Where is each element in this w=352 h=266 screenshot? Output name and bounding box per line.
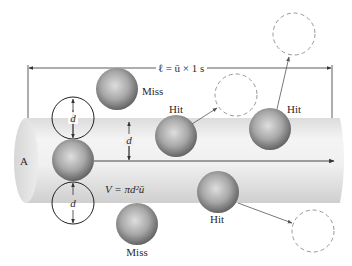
miss-label-top: Miss <box>142 85 163 97</box>
hit-label-2: Hit <box>287 103 301 115</box>
deflected-position-1 <box>215 74 257 116</box>
molecule-miss-top: Miss <box>96 68 163 110</box>
length-label: ℓ = ū × 1 s <box>158 62 205 74</box>
miss-label-bottom: Miss <box>126 246 147 258</box>
hit-label-3: Hit <box>210 213 224 225</box>
area-label: A <box>20 155 28 167</box>
d-label-top: d <box>70 112 76 124</box>
molecule-miss-bottom: Miss <box>116 203 158 258</box>
d-label-center: d <box>126 134 132 146</box>
collision-cylinder-diagram: ℓ = ū × 1 s d A d d V = πd²ū Miss Hit <box>0 0 352 266</box>
deflected-position-2 <box>273 13 315 55</box>
d-label-bottom: d <box>70 197 76 209</box>
hit-label-1: Hit <box>169 103 183 115</box>
deflected-position-3 <box>292 210 334 252</box>
moving-molecule <box>52 139 94 181</box>
volume-label: V = πd²ū <box>105 183 145 195</box>
